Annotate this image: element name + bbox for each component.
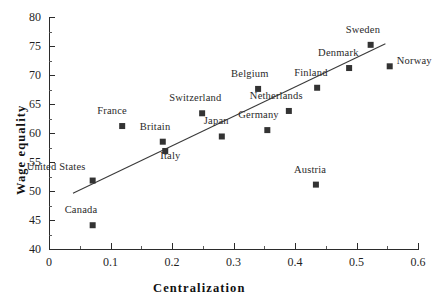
x-tick-label: 0.5 <box>337 256 377 268</box>
data-point-label: Switzerland <box>169 93 221 104</box>
y-tick-label: 45 <box>9 214 41 226</box>
x-axis-title: Centralization <box>153 281 245 296</box>
data-point-marker <box>368 42 374 48</box>
x-tick-label: 0.3 <box>214 256 254 268</box>
trend-line <box>73 44 385 194</box>
y-axis-title: Wage equality <box>14 105 29 195</box>
data-point-marker <box>346 65 352 71</box>
x-tick-label: 0.1 <box>91 256 131 268</box>
data-point-marker <box>313 182 319 188</box>
data-point-label: Norway <box>397 56 432 67</box>
data-point-label: Italy <box>160 151 180 162</box>
y-tick-label: 40 <box>9 243 41 255</box>
data-point-label: Finland <box>294 68 328 79</box>
data-point-marker <box>119 123 125 129</box>
data-point-marker <box>90 178 96 184</box>
data-point-marker <box>286 108 292 114</box>
data-point-label: Netherlands <box>250 91 303 102</box>
scatter-chart-figure: CanadaUnited StatesFranceBritainItalySwi… <box>0 0 439 302</box>
data-point-label: Denmark <box>318 48 358 59</box>
data-point-marker <box>90 222 96 228</box>
data-point-label: Sweden <box>346 25 380 36</box>
y-tick-label: 80 <box>9 11 41 23</box>
data-point-label: Austria <box>294 165 326 176</box>
x-tick-label: 0.6 <box>398 256 438 268</box>
data-point-label: France <box>97 106 127 117</box>
data-point-marker <box>160 139 166 145</box>
x-tick-label: 0.2 <box>152 256 192 268</box>
data-point-marker <box>314 85 320 91</box>
axes <box>49 17 419 250</box>
data-point-label: Germany <box>238 110 278 121</box>
data-point-label: Canada <box>65 205 98 216</box>
x-tick-label: 0.4 <box>275 256 315 268</box>
data-point-label: Japan <box>204 116 229 127</box>
data-point-marker <box>387 63 393 69</box>
data-point-label: Belgium <box>231 69 269 80</box>
data-point-label: Britain <box>140 122 171 133</box>
y-tick-label: 70 <box>9 69 41 81</box>
data-point-marker <box>219 133 225 139</box>
x-tick-label: 0 <box>29 256 69 268</box>
y-tick-label: 75 <box>9 40 41 52</box>
data-point-marker <box>264 127 270 133</box>
